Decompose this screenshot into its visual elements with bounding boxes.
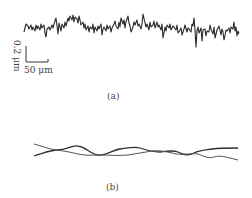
- horizontal-scale-label: 50 μm: [24, 65, 53, 75]
- figure-canvas: [0, 0, 252, 198]
- rough-profile-trace: [24, 14, 239, 47]
- vertical-scale-label: 0.2 μm: [12, 40, 22, 72]
- scale-bar: [26, 46, 48, 62]
- panel-b-caption: (b): [106, 182, 119, 192]
- smooth-profile-curve-2: [34, 144, 238, 160]
- panel-a-caption: (a): [107, 91, 119, 101]
